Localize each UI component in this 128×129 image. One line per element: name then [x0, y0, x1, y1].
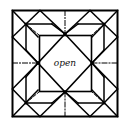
crease-pattern-diagram: open — [0, 0, 128, 129]
center-label: open — [54, 58, 77, 68]
